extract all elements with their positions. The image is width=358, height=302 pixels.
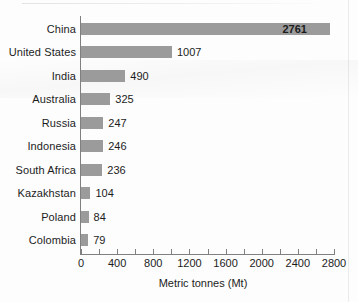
bar-row: China2761 [0, 17, 358, 41]
x-tick [117, 249, 118, 254]
x-tick-label: 1200 [177, 257, 201, 269]
bar [81, 187, 90, 199]
x-tick [226, 249, 227, 254]
x-tick [298, 249, 299, 254]
bar-row: South Africa236 [0, 158, 358, 182]
bar-row: Indonesia246 [0, 135, 358, 159]
bar-row: Colombia79 [0, 229, 358, 253]
value-label: 2761 [282, 23, 306, 35]
x-axis-title-text: Metric tonnes (Mt) [111, 277, 248, 289]
value-label: 79 [93, 234, 105, 246]
value-label: 490 [130, 70, 148, 82]
x-tick-label: 2400 [286, 257, 310, 269]
x-tick [81, 249, 82, 254]
bar [81, 117, 103, 129]
x-tick-label: 1600 [213, 257, 237, 269]
bar [81, 234, 88, 246]
bar [81, 70, 125, 82]
bar-row: India490 [0, 64, 358, 88]
bar [81, 211, 89, 223]
value-label: 84 [94, 211, 106, 223]
category-label: India [52, 70, 76, 82]
category-label: Indonesia [27, 140, 76, 152]
bar [81, 46, 172, 58]
x-tick-label: 2000 [249, 257, 273, 269]
category-label: United States [9, 46, 76, 58]
bar-row: Poland84 [0, 205, 358, 229]
x-tick [153, 249, 154, 254]
x-tick [208, 249, 209, 254]
value-label: 1007 [177, 46, 201, 58]
x-tick [316, 249, 317, 254]
value-label: 325 [115, 93, 133, 105]
category-label: Russia [42, 117, 76, 129]
x-tick [135, 249, 136, 254]
bar-row: Australia325 [0, 88, 358, 112]
bar [81, 140, 103, 152]
x-axis-title: Metric tonnes (Mt) [0, 277, 358, 289]
bar [81, 93, 110, 105]
x-tick [99, 249, 100, 254]
plot-area: China2761United States1007India490Austra… [0, 16, 358, 252]
value-label: 246 [108, 140, 126, 152]
category-label: Poland [41, 211, 76, 223]
value-label: 104 [95, 187, 113, 199]
category-label: Australia [32, 93, 76, 105]
bar-row: United States1007 [0, 41, 358, 65]
x-tick [280, 249, 281, 254]
bar-row: Kazakhstan104 [0, 182, 358, 206]
category-label: Colombia [29, 234, 76, 246]
x-tick [244, 249, 245, 254]
category-label: South Africa [15, 164, 76, 176]
x-tick [262, 249, 263, 254]
x-tick-label: 0 [78, 257, 84, 269]
x-tick [334, 249, 335, 254]
scan-artifact-top-line [22, 3, 332, 4]
bar-chart: China2761United States1007India490Austra… [0, 0, 358, 302]
bar [81, 164, 102, 176]
category-label: Kazakhstan [18, 187, 76, 199]
value-label: 236 [107, 164, 125, 176]
bar-row: Russia247 [0, 111, 358, 135]
value-label: 247 [108, 117, 126, 129]
x-tick-label: 800 [144, 257, 162, 269]
x-tick [171, 249, 172, 254]
x-axis-line [80, 254, 335, 255]
x-tick-label: 2800 [322, 257, 346, 269]
x-tick [189, 249, 190, 254]
category-label: China [47, 23, 76, 35]
x-tick-label: 400 [108, 257, 126, 269]
